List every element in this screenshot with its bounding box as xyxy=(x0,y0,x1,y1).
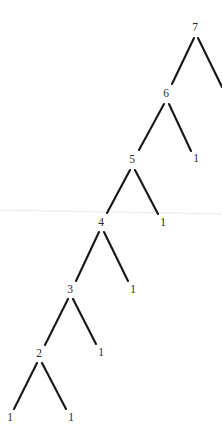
recursion-tree-figure: 761514131211 xyxy=(0,0,222,447)
tree-node-label: 1 xyxy=(130,284,136,296)
tree-node-label: 6 xyxy=(163,88,169,100)
tree-node-label: 5 xyxy=(129,154,135,166)
tree-edge xyxy=(172,38,194,84)
tree-edge xyxy=(104,232,128,281)
tree-edge xyxy=(169,104,191,151)
scan-line xyxy=(0,210,222,214)
tree-node-label: 1 xyxy=(193,153,199,165)
tree-edge xyxy=(14,363,37,409)
tree-node-label: 3 xyxy=(67,284,73,296)
tree-edge xyxy=(42,363,66,409)
tree-edge xyxy=(139,104,164,150)
tree-edge xyxy=(107,170,130,213)
tree-node-label: 7 xyxy=(192,22,198,34)
tree-node-label: 1 xyxy=(98,347,104,359)
tree-edge-group xyxy=(14,38,222,409)
tree-edge xyxy=(45,299,68,345)
tree-node-label: 1 xyxy=(68,412,74,424)
scan-line-segment xyxy=(0,210,222,214)
tree-node-label: 1 xyxy=(7,412,13,424)
tree-edges-canvas xyxy=(0,0,222,447)
tree-edge xyxy=(198,38,222,87)
tree-node-label: 1 xyxy=(160,217,166,229)
tree-node-label: 2 xyxy=(36,348,42,360)
tree-edge xyxy=(73,299,96,344)
tree-node-label: 4 xyxy=(98,217,104,229)
tree-edge xyxy=(76,232,99,281)
tree-edge xyxy=(135,170,158,214)
